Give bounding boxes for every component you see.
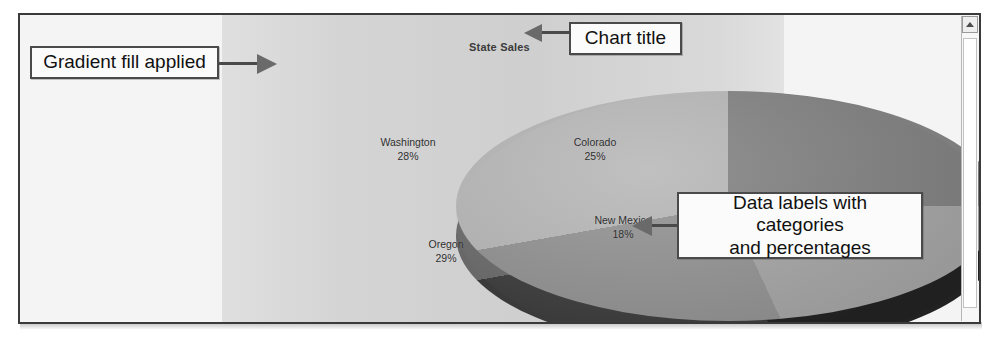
callout-data-labels-text: Data labels with categories and percenta…: [688, 192, 912, 259]
callout-chart-title-text: Chart title: [585, 27, 666, 49]
data-label-washington[interactable]: Washington 28%: [353, 135, 463, 163]
scanned-page: State Sales Washington 28% Colorado 25% …: [0, 0, 999, 340]
callout-data-labels-line2: and percentages: [729, 237, 871, 258]
chart-plot-area[interactable]: [222, 15, 784, 322]
scrollbar-thumb[interactable]: [963, 38, 977, 308]
callout-data-labels: Data labels with categories and percenta…: [677, 192, 923, 259]
data-label-colorado-percent: 25%: [540, 149, 650, 163]
callout-gradient-fill-text: Gradient fill applied: [43, 51, 206, 73]
leader-line: [219, 62, 259, 65]
data-label-oregon-percent: 29%: [396, 251, 496, 265]
data-label-washington-category: Washington: [353, 135, 463, 149]
gradient-callout-leader: [219, 54, 281, 74]
callout-gradient-fill: Gradient fill applied: [30, 46, 219, 79]
arrow-left-icon: [632, 216, 652, 236]
data-label-washington-percent: 28%: [353, 149, 463, 163]
callout-data-labels-line1: Data labels with categories: [733, 192, 867, 235]
data-label-colorado-category: Colorado: [540, 135, 650, 149]
title-callout-leader: [524, 24, 572, 42]
vertical-scrollbar[interactable]: [961, 16, 978, 321]
triangle-up-icon: [966, 22, 974, 27]
arrow-right-icon: [257, 54, 277, 74]
scroll-up-arrow-icon[interactable]: [962, 16, 978, 33]
data-label-oregon-category: Oregon: [396, 237, 496, 251]
datalabels-callout-leader: [632, 216, 682, 236]
data-label-oregon[interactable]: Oregon 29%: [396, 237, 496, 265]
chart-title[interactable]: State Sales: [469, 41, 530, 53]
arrow-left-icon: [524, 24, 542, 42]
callout-chart-title: Chart title: [569, 22, 682, 55]
data-label-colorado[interactable]: Colorado 25%: [540, 135, 650, 163]
